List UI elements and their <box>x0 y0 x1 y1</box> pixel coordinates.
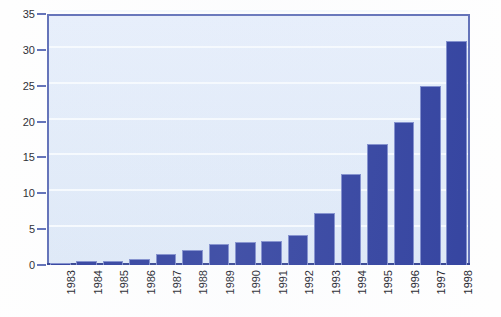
bar-slot <box>206 14 232 265</box>
bar-slot <box>285 14 311 265</box>
x-axis-tick-label: 1990 <box>250 270 262 294</box>
bar-slot <box>444 14 470 265</box>
bar-chart-figure: 05101520253035 1983198419851986198719881… <box>0 0 501 317</box>
bar-slot <box>153 14 179 265</box>
y-axis-tick-mark <box>37 192 46 194</box>
bar[interactable] <box>235 242 256 265</box>
x-axis-tick-label: 1986 <box>145 270 157 294</box>
bar-slot <box>259 14 285 265</box>
bar[interactable] <box>50 263 71 265</box>
x-axis-tick-label: 1998 <box>462 270 474 294</box>
bar[interactable] <box>341 174 362 265</box>
x-axis-tick-label: 1988 <box>197 270 209 294</box>
bar-slot <box>391 14 417 265</box>
y-axis-tick-mark <box>37 264 46 266</box>
x-axis-tick-label: 1992 <box>303 270 315 294</box>
y-axis-tick-label: 10 <box>23 187 35 199</box>
x-axis-tick-label: 1997 <box>435 270 447 294</box>
bar-slot <box>73 14 99 265</box>
bar[interactable] <box>103 261 124 265</box>
y-axis-tick-label: 5 <box>29 223 35 235</box>
x-axis-tick-label: 1985 <box>118 270 130 294</box>
bar[interactable] <box>182 250 203 265</box>
bars-layer <box>47 14 470 265</box>
x-axis: 1983198419851986198719881989199019911992… <box>47 268 470 317</box>
bar-slot <box>417 14 443 265</box>
bar-slot <box>364 14 390 265</box>
x-axis-tick-label: 1991 <box>277 270 289 294</box>
y-axis-tick-label: 0 <box>29 259 35 271</box>
bar-slot <box>311 14 337 265</box>
x-axis-tick-label: 1984 <box>92 270 104 294</box>
x-axis-tick-label: 1993 <box>330 270 342 294</box>
bar[interactable] <box>156 254 177 265</box>
y-axis-tick-mark <box>37 13 46 15</box>
y-axis: 05101520253035 <box>0 0 47 279</box>
y-axis-tick-label: 20 <box>23 116 35 128</box>
bar-slot <box>126 14 152 265</box>
bar[interactable] <box>129 259 150 265</box>
x-axis-tick-label: 1983 <box>65 270 77 294</box>
bar[interactable] <box>76 261 97 265</box>
x-axis-tick-label: 1996 <box>409 270 421 294</box>
y-axis-tick-mark <box>37 49 46 51</box>
y-axis-tick-label: 25 <box>23 80 35 92</box>
bar[interactable] <box>314 213 335 265</box>
bar[interactable] <box>261 241 282 265</box>
bar[interactable] <box>420 86 441 265</box>
y-axis-tick-label: 15 <box>23 151 35 163</box>
y-axis-tick-mark <box>37 228 46 230</box>
bar[interactable] <box>209 244 230 266</box>
x-axis-tick-label: 1987 <box>171 270 183 294</box>
bar-slot <box>100 14 126 265</box>
bar-slot <box>179 14 205 265</box>
bar[interactable] <box>367 144 388 265</box>
bar-slot <box>338 14 364 265</box>
y-axis-tick-label: 35 <box>23 8 35 20</box>
bar[interactable] <box>446 41 467 265</box>
bar[interactable] <box>394 122 415 265</box>
bar-slot <box>232 14 258 265</box>
x-axis-tick-label: 1989 <box>224 270 236 294</box>
gridline <box>49 10 468 12</box>
y-axis-tick-mark <box>37 121 46 123</box>
y-axis-tick-label: 30 <box>23 44 35 56</box>
x-axis-tick-label: 1994 <box>356 270 368 294</box>
y-axis-tick-mark <box>37 156 46 158</box>
x-axis-tick-label: 1995 <box>382 270 394 294</box>
bar-slot <box>47 14 73 265</box>
y-axis-tick-mark <box>37 85 46 87</box>
bar[interactable] <box>288 235 309 265</box>
